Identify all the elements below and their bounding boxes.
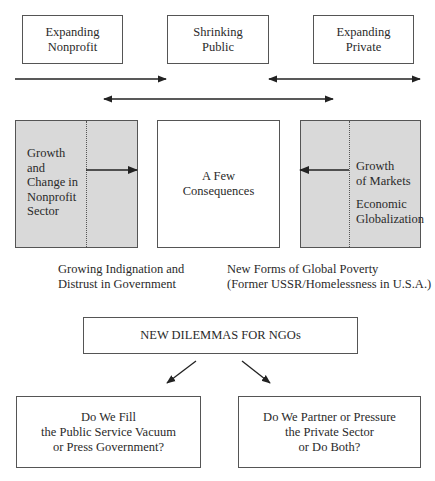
arrow-dilemma-left <box>167 361 196 383</box>
arrows-layer <box>0 0 435 481</box>
arrow-dilemma-right <box>242 361 270 383</box>
